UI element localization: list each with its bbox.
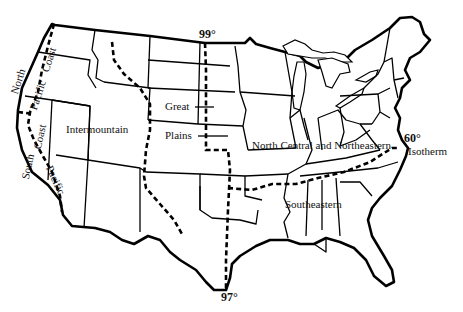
us-regions-map [0,0,463,312]
label-meridian-99: 99° [199,28,216,40]
label-southeastern: Southeastern [285,199,342,210]
label-meridian-97: 97° [221,291,238,303]
label-north-central-northeastern: North Central and Northeastern [252,140,391,151]
label-plains: Plains [165,130,192,141]
label-isotherm-60: 60° [404,132,421,144]
label-great: Great [165,101,189,112]
label-isotherm: Isotherm [408,146,447,157]
label-intermountain: Intermountain [66,124,128,135]
